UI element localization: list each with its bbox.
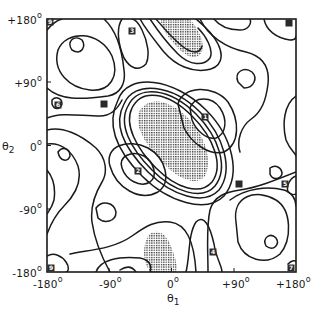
x-tick-neg180: -180o xyxy=(33,276,63,290)
y-tick-90: +90o xyxy=(2,75,42,89)
stippled-region-center xyxy=(138,102,208,181)
marker-4: 4 xyxy=(210,248,217,255)
svg-text:1: 1 xyxy=(203,113,207,120)
marker-9-top: 9 xyxy=(47,18,54,25)
marker-unlabeled-left xyxy=(101,101,108,108)
marker-5: 5 xyxy=(282,180,289,187)
marker-2: 2 xyxy=(135,167,142,174)
svg-text:9: 9 xyxy=(48,18,52,25)
x-axis-title: θ1 xyxy=(167,292,179,307)
svg-text:5: 5 xyxy=(283,180,287,187)
marker-7: 7 xyxy=(288,264,295,271)
marker-3: 3 xyxy=(129,27,136,34)
x-tick-0: 0o xyxy=(167,276,179,290)
y-axis-title: θ2 xyxy=(2,140,14,155)
marker-unlabeled-right xyxy=(236,181,243,188)
marker-unlabeled-top-right xyxy=(286,20,293,27)
y-tick-180: +180o xyxy=(2,12,42,26)
svg-text:3: 3 xyxy=(130,27,134,34)
x-tick-90: +90o xyxy=(222,276,250,290)
marker-1: 1 xyxy=(202,113,209,120)
y-tick-neg90: -90o xyxy=(2,202,42,216)
marker-9-bottom: 9 xyxy=(48,264,55,271)
stippled-region-bottom xyxy=(144,232,177,272)
svg-text:2: 2 xyxy=(136,167,140,174)
svg-text:9: 9 xyxy=(49,264,53,271)
svg-text:4: 4 xyxy=(211,248,215,255)
x-tick-180: +180o xyxy=(276,276,311,290)
contour-plot: 9 3 6 1 2 5 4 9 7 xyxy=(0,0,318,315)
x-tick-neg90: -90o xyxy=(99,276,122,290)
contour-lines xyxy=(47,19,296,272)
svg-text:6: 6 xyxy=(56,101,60,108)
marker-6: 6 xyxy=(55,101,62,108)
svg-text:7: 7 xyxy=(289,264,293,271)
